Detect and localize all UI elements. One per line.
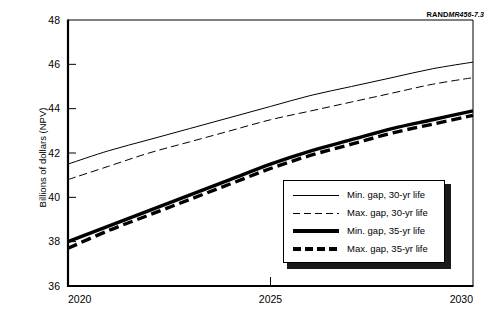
chart-legend: Min. gap, 30-yr life Max. gap, 30-yr lif…: [283, 180, 447, 265]
y-axis-tick-label: 36: [48, 280, 60, 292]
figure-container: RANDMR456-7.3 Billions of dollars (NPV) …: [0, 0, 504, 320]
legend-item-label: Min. gap, 35-yr life: [347, 226, 425, 236]
line-swatch-thin-solid-icon: [293, 189, 339, 201]
legend-item-max-gap-30yr[interactable]: Max. gap, 30-yr life: [284, 204, 444, 222]
y-axis-tick-label: 42: [48, 147, 60, 159]
y-axis-tick-label: 46: [48, 58, 60, 70]
line-swatch-thin-dashed-icon: [293, 207, 339, 219]
y-axis-tick-label: 44: [48, 102, 60, 114]
y-axis-tick-label: 40: [48, 191, 60, 203]
x-axis-tick-label: 2030: [450, 293, 474, 305]
legend-item-min-gap-35yr[interactable]: Min. gap, 35-yr life: [284, 222, 444, 240]
series-line-thin-solid: [68, 62, 473, 164]
y-axis-tick-label: 48: [48, 14, 60, 26]
legend-item-label: Min. gap, 30-yr life: [347, 190, 425, 200]
line-swatch-thick-dashed-icon: [293, 243, 339, 255]
x-axis-tick-label: 2020: [68, 293, 92, 305]
legend-item-min-gap-30yr[interactable]: Min. gap, 30-yr life: [284, 186, 444, 204]
legend-item-label: Max. gap, 30-yr life: [347, 208, 428, 218]
chart-plot: 36384042444648202020252030: [0, 0, 504, 320]
y-axis-tick-label: 38: [48, 235, 60, 247]
legend-item-label: Max. gap, 35-yr life: [347, 244, 428, 254]
x-axis-tick-label: 2025: [259, 293, 283, 305]
legend-box: Min. gap, 30-yr life Max. gap, 30-yr lif…: [283, 180, 445, 263]
legend-item-max-gap-35yr[interactable]: Max. gap, 35-yr life: [284, 240, 444, 258]
line-swatch-thick-solid-icon: [293, 225, 339, 237]
